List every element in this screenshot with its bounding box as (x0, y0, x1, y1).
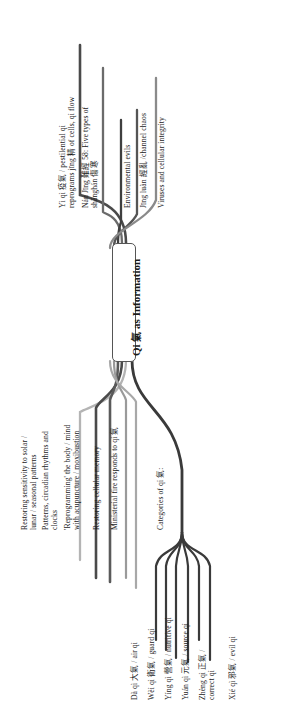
mindmap-canvas: Qi 氣 as Information Yì qì 疫氣 / pestilent… (0, 0, 307, 705)
branch-label-environmental-evils[interactable]: Environmental evils (123, 145, 132, 208)
branch-label-ministerial-fire[interactable]: Ministerial fire responds to qi 氣 (110, 427, 119, 530)
branch-connectors (0, 0, 307, 705)
branch-label-da-qi[interactable]: Dà qì 大氣 / air qi (130, 642, 139, 700)
branch-label-yi-qi[interactable]: Yì qì 疫氣 / pestilential qi reprograms jī… (58, 40, 77, 208)
root-node[interactable]: Qi 氣 as Information (112, 243, 136, 362)
branch-label-patterns-circadian[interactable]: Patterns, circadian rhythms and clocks (41, 365, 60, 530)
branch-label-categories-of-qi[interactable]: Categories of qi 氣: (156, 468, 165, 530)
branch-label-restoring-sensitivity[interactable]: Restoring sensitivity to solar / lunar /… (20, 365, 39, 530)
branch-label-nan-jing-58[interactable]: Nán Jīng 難經 58: Five types of shānghán 傷… (81, 40, 100, 208)
branch-label-jing-luan[interactable]: Jīng luàn 經亂 /channel chaos (139, 113, 148, 208)
branch-label-xie-qi[interactable]: Xié qì 邪氣 / evil qi (228, 636, 237, 700)
branch-label-reprogramming[interactable]: 'Reprogramming' the body / mind with acu… (63, 365, 82, 530)
branch-label-zheng-qi[interactable]: Zhèng qì 正氣 / correct qi (198, 595, 217, 700)
root-node-label: Qi 氣 as Information (128, 259, 143, 356)
branch-label-wei-qi[interactable]: Wèi qì 衛氣 / guard qi (147, 629, 156, 700)
branch-label-ying-qi[interactable]: Yíng qì 營氣 / nutritive qi (164, 617, 173, 700)
branch-label-viruses-cellular-integrity[interactable]: Viruses and cellular integrity (157, 117, 166, 208)
branch-label-restoring-cellular-memory[interactable]: Restoring cellular memory (92, 446, 101, 530)
branch-label-yuan-qi[interactable]: Yuán qì 元氣 / source qi (181, 623, 190, 700)
